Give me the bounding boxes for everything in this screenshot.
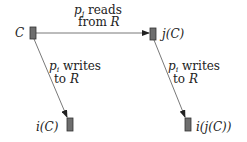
node-ic-label: i(C) (36, 121, 58, 133)
node-c-label: C (15, 27, 24, 39)
node-c-box (30, 27, 36, 39)
node-ijc-box (185, 118, 191, 131)
node-jc-label: j(C) (162, 28, 184, 40)
node-jc-box (150, 28, 156, 40)
edge-reads-label-line2: from R (78, 16, 120, 28)
edge-writes-left-label-line2: to R (54, 73, 79, 85)
edge-writes-right-label-line2: to R (173, 73, 198, 85)
node-ic-box (67, 118, 73, 131)
diagram-canvas: C j(C) i(C) i(j(C)) pj reads from R pi w… (0, 0, 247, 142)
node-ijc-label: i(j(C)) (196, 121, 231, 133)
